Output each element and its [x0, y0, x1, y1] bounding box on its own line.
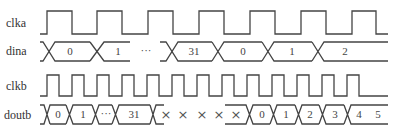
doutb-value-2: 2	[307, 108, 313, 120]
doutb-ellipsis: ···	[101, 107, 112, 119]
dina-value-31: 31	[189, 45, 200, 57]
dina-value-0b: 0	[240, 45, 246, 57]
doutb-value-31: 31	[129, 108, 140, 120]
doutb-value-1: 1	[80, 108, 86, 120]
signal-label-clkb: clkb	[6, 79, 27, 93]
dina-value-0: 0	[67, 45, 73, 57]
doutb-value-4: 4	[356, 108, 362, 120]
undefined-mark-2: ×	[178, 107, 189, 122]
undefined-mark-5: ×	[231, 107, 242, 122]
doutb-value-0b: 0	[259, 108, 265, 120]
signal-label-clka: clka	[6, 16, 27, 30]
dina-value-1b: 1	[289, 45, 295, 57]
undefined-mark-4: ×	[214, 107, 225, 122]
dina-bus	[40, 42, 388, 61]
clka-waveform	[40, 11, 388, 34]
doutb-value-0: 0	[55, 108, 61, 120]
undefined-mark-3: ×	[197, 107, 208, 122]
clkb-waveform	[40, 75, 388, 96]
doutb-value-5: 5	[375, 108, 381, 120]
doutb-value-1b: 1	[283, 108, 289, 120]
timing-diagram: clka dina clkb doutb 0 1 ··· 31 0 1 2	[0, 0, 411, 139]
signal-label-dina: dina	[6, 44, 27, 58]
doutb-value-3: 3	[332, 108, 338, 120]
dina-value-2: 2	[342, 45, 348, 57]
dina-ellipsis: ···	[141, 44, 152, 56]
undefined-mark-1: ×	[161, 107, 172, 122]
signal-label-doutb: doutb	[4, 108, 31, 122]
dina-value-1: 1	[115, 45, 121, 57]
